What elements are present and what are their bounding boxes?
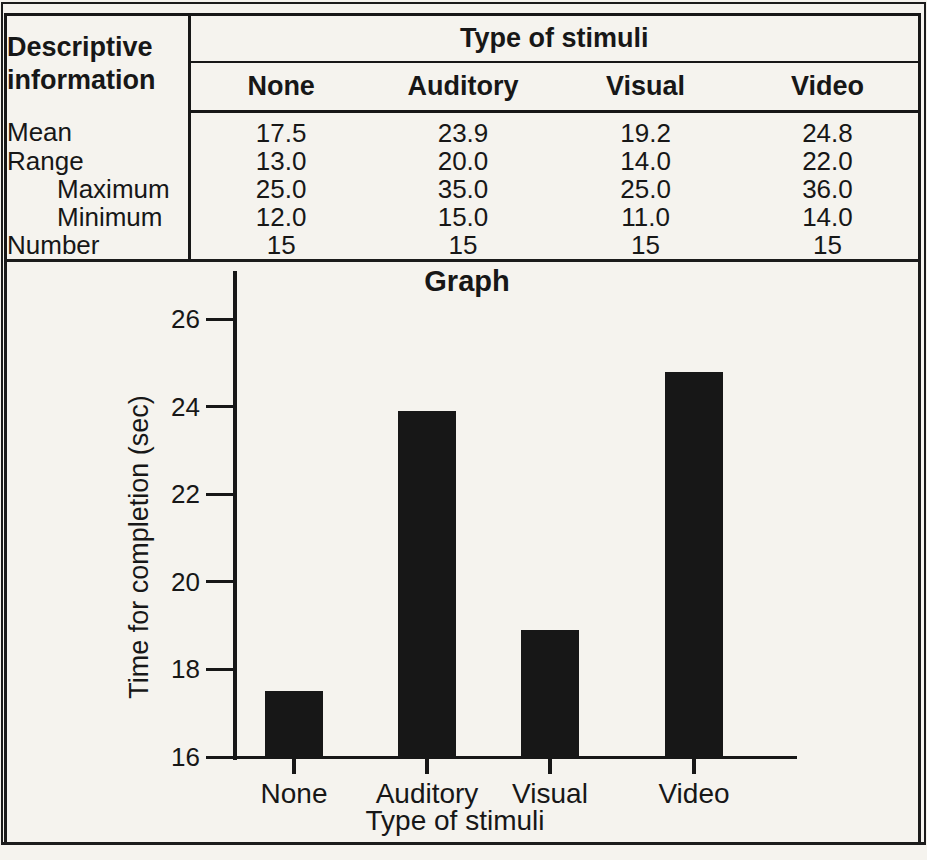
cell-value: 20.0 [372, 147, 555, 175]
row-label: Range [6, 147, 190, 175]
cell-value: 15 [554, 231, 737, 261]
cell-value: 14.0 [554, 147, 737, 175]
cell-value: 15 [189, 231, 372, 261]
y-tick-label: 26 [138, 304, 200, 334]
cell-value: 13.0 [189, 147, 372, 175]
table-row: Number15151515 [6, 231, 920, 261]
corner-header: Descriptive information [6, 15, 190, 112]
y-tick-mark [206, 756, 233, 759]
chart-title: Graph [424, 265, 509, 298]
column-header-visual: Visual [554, 62, 737, 112]
row-label: Number [6, 231, 190, 261]
stats-table-body: Mean17.523.919.224.8Range13.020.014.022.… [6, 112, 920, 261]
stats-table: Descriptive information Type of stimuli … [4, 13, 921, 262]
cell-value: 24.8 [737, 112, 920, 148]
cell-value: 36.0 [737, 175, 920, 203]
table-row: Maximum25.035.025.036.0 [6, 175, 920, 203]
y-tick-mark [206, 405, 233, 408]
bar-none [265, 691, 323, 757]
y-tick-mark [206, 580, 233, 583]
y-tick-label: 20 [138, 567, 200, 597]
x-tick-mark [425, 757, 429, 774]
cell-value: 23.9 [372, 112, 555, 148]
bar-video [665, 372, 723, 757]
y-tick-label: 24 [138, 392, 200, 422]
x-tick-mark [548, 757, 552, 774]
bar-visual [521, 630, 579, 757]
figure: Descriptive information Type of stimuli … [0, 0, 927, 860]
cell-value: 22.0 [737, 147, 920, 175]
y-tick-label: 22 [138, 479, 200, 509]
table-row: Range13.020.014.022.0 [6, 147, 920, 175]
y-tick-mark [206, 493, 233, 496]
row-label: Maximum [6, 175, 190, 203]
cell-value: 25.0 [189, 175, 372, 203]
y-tick-label: 18 [138, 654, 200, 684]
x-tick-mark [692, 757, 696, 774]
cell-value: 14.0 [737, 203, 920, 231]
category-label-video: Video [614, 778, 774, 810]
chart-box: Graph Time for completion (sec) Type of … [4, 259, 921, 845]
column-header-none: None [189, 62, 372, 112]
x-tick-mark [292, 757, 296, 774]
column-header-video: Video [737, 62, 920, 112]
cell-value: 35.0 [372, 175, 555, 203]
cell-value: 19.2 [554, 112, 737, 148]
plot-area: Graph Time for completion (sec) Type of … [7, 262, 918, 842]
cell-value: 15 [737, 231, 920, 261]
cell-value: 11.0 [554, 203, 737, 231]
corner-header-line1: Descriptive [7, 31, 188, 64]
group-header: Type of stimuli [189, 15, 919, 63]
row-label: Mean [6, 112, 190, 148]
row-label: Minimum [6, 203, 190, 231]
y-tick-mark [206, 668, 233, 671]
y-axis-line [233, 271, 237, 760]
cell-value: 15.0 [372, 203, 555, 231]
corner-header-line2: information [7, 64, 188, 97]
cell-value: 12.0 [189, 203, 372, 231]
column-header-auditory: Auditory [372, 62, 555, 112]
category-label-visual: Visual [470, 778, 630, 810]
y-axis-label: Time for completion (sec) [124, 395, 155, 699]
y-tick-mark [206, 318, 233, 321]
cell-value: 25.0 [554, 175, 737, 203]
y-tick-label: 16 [138, 742, 200, 772]
cell-value: 17.5 [189, 112, 372, 148]
table-row: Mean17.523.919.224.8 [6, 112, 920, 148]
bar-auditory [398, 411, 456, 757]
table-row: Minimum12.015.011.014.0 [6, 203, 920, 231]
cell-value: 15 [372, 231, 555, 261]
